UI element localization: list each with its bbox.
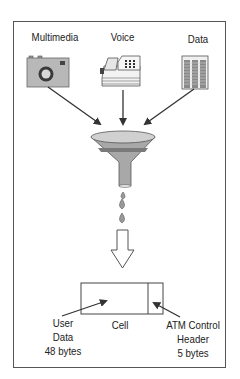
payload-label-line3: 48 bytes bbox=[37, 344, 90, 358]
header-label-line2: Header bbox=[167, 332, 220, 346]
input-arrows bbox=[48, 87, 194, 124]
drops-icon bbox=[120, 192, 126, 223]
data-document-icon bbox=[182, 56, 208, 89]
payload-label-line2: Data bbox=[41, 330, 85, 344]
atm-cell-box bbox=[81, 283, 163, 314]
funnel-icon bbox=[91, 131, 155, 188]
payload-label-line1: User bbox=[41, 316, 85, 330]
header-label-line3: 5 bytes bbox=[167, 346, 220, 360]
cell-label: Cell bbox=[102, 318, 137, 332]
telephone-fax-icon bbox=[100, 56, 140, 86]
hollow-down-arrow-icon bbox=[111, 230, 134, 268]
camera-icon bbox=[27, 56, 69, 87]
header-label-line1: ATM Control bbox=[162, 318, 224, 332]
